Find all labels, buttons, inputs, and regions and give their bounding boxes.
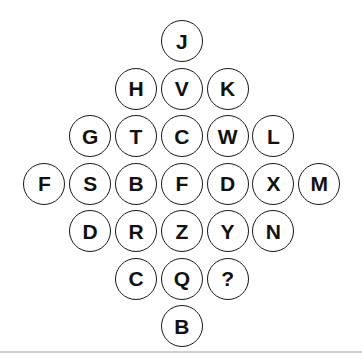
letter: L xyxy=(267,126,280,147)
letter-circle: H xyxy=(115,68,157,110)
letter-circle: W xyxy=(207,115,249,157)
letter-circle: F xyxy=(23,163,65,205)
letter-diamond-puzzle: JHVKGTCWLFSBFDXMDRZYNCQ?B xyxy=(0,0,362,359)
letter: Q xyxy=(174,268,190,289)
letter-circle: V xyxy=(161,68,203,110)
letter-circle: S xyxy=(69,163,111,205)
letter-circle: L xyxy=(252,115,294,157)
letter-circle: B xyxy=(115,163,157,205)
letter-circle: M xyxy=(298,163,340,205)
letter-circle: D xyxy=(207,163,249,205)
letter: F xyxy=(38,173,51,194)
letter: F xyxy=(175,173,188,194)
letter: C xyxy=(174,126,189,147)
letter: D xyxy=(220,173,235,194)
letter: S xyxy=(83,173,97,194)
letter-circle: Q xyxy=(161,258,203,300)
letter: B xyxy=(128,173,143,194)
letter: N xyxy=(266,221,281,242)
letter-circle: N xyxy=(252,210,294,252)
missing-letter-circle: ? xyxy=(207,258,249,300)
divider-line xyxy=(0,351,362,353)
question-mark: ? xyxy=(221,268,234,289)
letter-circle: R xyxy=(115,210,157,252)
letter: C xyxy=(128,268,143,289)
letter-circle: C xyxy=(161,115,203,157)
letter: Y xyxy=(221,221,235,242)
letter: D xyxy=(83,221,98,242)
letter: J xyxy=(176,31,188,52)
letter: W xyxy=(218,126,238,147)
letter: T xyxy=(130,126,143,147)
letter-circle: D xyxy=(69,210,111,252)
letter-circle: F xyxy=(161,163,203,205)
letter: G xyxy=(82,126,98,147)
letter: H xyxy=(128,78,143,99)
letter: Z xyxy=(175,221,188,242)
letter-circle: T xyxy=(115,115,157,157)
letter: B xyxy=(174,316,189,337)
letter-circle: B xyxy=(161,305,203,347)
letter-circle: Z xyxy=(161,210,203,252)
letter-circle: G xyxy=(69,115,111,157)
letter: X xyxy=(266,173,280,194)
letter-circle: K xyxy=(207,68,249,110)
letter: K xyxy=(220,78,235,99)
letter: R xyxy=(128,221,143,242)
letter-circle: X xyxy=(252,163,294,205)
letter: V xyxy=(175,78,189,99)
letter-circle: Y xyxy=(207,210,249,252)
letter: M xyxy=(310,173,328,194)
letter-circle: J xyxy=(161,20,203,62)
letter-circle: C xyxy=(115,258,157,300)
